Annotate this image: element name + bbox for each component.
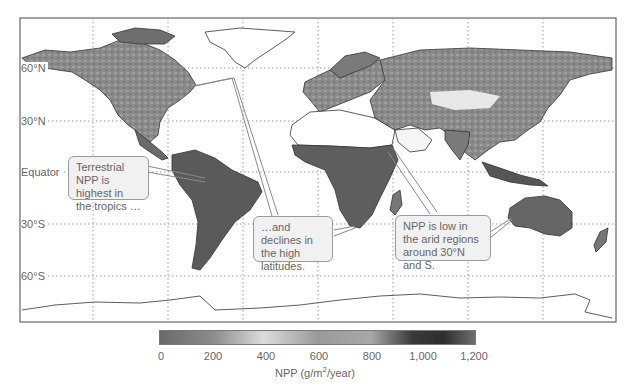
colorbar-tick-400: 400 — [257, 350, 275, 362]
colorbar-label: NPP (g/m2/year) — [0, 365, 630, 379]
colorbar-tick-800: 800 — [363, 350, 381, 362]
lat-label-60s: 60°S — [21, 270, 47, 282]
lat-label-equator: Equator — [21, 166, 62, 178]
lat-label-30n: 30°N — [21, 115, 48, 127]
colorbar-tick-1000: 1,000 — [409, 350, 437, 362]
callout-high-latitudes: …and declines in the high latitudes. — [253, 216, 333, 262]
lat-label-60n: 60°N — [21, 62, 48, 74]
colorbar-tick-600: 600 — [310, 350, 328, 362]
lat-label-30s: 30°S — [21, 218, 47, 230]
callout-arid: NPP is low in the arid regions around 30… — [395, 215, 491, 261]
colorbar-tick-200: 200 — [204, 350, 222, 362]
colorbar-tick-1200: 1,200 — [460, 350, 488, 362]
colorbar — [159, 330, 476, 345]
callout-tropics: Terrestrial NPP is highest in the tropic… — [68, 156, 149, 200]
colorbar-tick-0: 0 — [158, 350, 164, 362]
